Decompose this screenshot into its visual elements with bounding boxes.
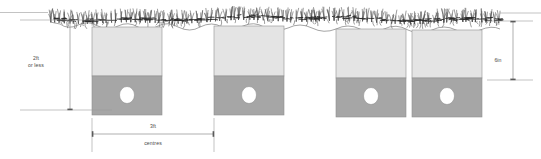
bore-hole <box>242 87 257 104</box>
hedge-stem <box>126 18 132 19</box>
stake-block-4 <box>412 30 482 117</box>
stake-block-1 <box>92 27 162 115</box>
dimension-label-primary: 2ft <box>33 55 40 61</box>
hedge-hang <box>225 20 227 23</box>
dimension-label-secondary: or less <box>28 62 44 68</box>
stake-block-2 <box>214 26 284 115</box>
hedge-sprig <box>258 12 260 20</box>
hedge-hang <box>183 23 185 29</box>
hedge-hang <box>268 20 269 22</box>
hedge-hang <box>407 23 408 27</box>
hedge-hang <box>85 23 87 29</box>
hedge-sprig <box>263 10 266 20</box>
hedge-sprig <box>281 10 282 21</box>
hedge-hang <box>313 20 314 24</box>
hedge-hang <box>476 21 478 24</box>
hedge-hang <box>198 22 199 27</box>
hedge-hang <box>272 20 273 23</box>
hedge-sprig <box>393 15 395 23</box>
hedge-hang <box>162 22 163 27</box>
diagram-canvas: 2ftor less3ftcentres6in <box>0 0 541 159</box>
hedge-hang <box>380 22 381 25</box>
hedge-hang <box>345 20 346 25</box>
hedge-sprig <box>162 12 163 23</box>
hedge-hang <box>430 22 431 27</box>
hedge-sprig <box>336 11 338 21</box>
hedge-stem <box>184 19 187 20</box>
bore-hole <box>440 88 455 105</box>
hedge-sprig <box>218 9 219 21</box>
hedge-stem <box>290 17 293 18</box>
dimension-depth-right: 6in <box>487 21 533 80</box>
hedge-hang <box>221 20 222 26</box>
hedge-sprig <box>68 13 70 23</box>
hedge-hang <box>481 21 482 26</box>
hedge-hang <box>347 20 348 24</box>
hedge-hang <box>417 23 419 28</box>
hedge-vegetation-layer <box>49 7 503 29</box>
hedge-hang <box>470 21 471 27</box>
hedge-stem <box>259 15 262 16</box>
hedge-hang <box>442 22 444 28</box>
hedge-hang <box>270 20 271 22</box>
hedge-sprig <box>377 10 378 22</box>
hedge-sprig <box>168 14 170 23</box>
hedge-stem <box>483 19 487 20</box>
hedge-hang <box>496 22 497 25</box>
stake-blocks-group <box>92 26 482 117</box>
hedge-hang <box>490 22 491 26</box>
hedge-hang <box>164 22 165 26</box>
hedge-hang <box>114 22 115 26</box>
hedge-hang <box>479 21 480 26</box>
hedge-hang <box>391 23 392 29</box>
hedge-hang <box>248 19 249 25</box>
hedge-hang <box>61 22 62 24</box>
hedge-sprig <box>78 13 79 23</box>
hedge-hang <box>401 23 402 25</box>
dimension-label-primary: 6in <box>494 57 501 63</box>
hedge-sprig <box>225 9 226 20</box>
hedge-stem <box>452 19 455 20</box>
hedge-sprig <box>449 12 451 22</box>
hedge-stake-diagram: 2ftor less3ftcentres6in <box>0 0 541 159</box>
hedge-stem <box>312 17 316 18</box>
hedge-stem <box>320 17 327 18</box>
hedge-stem <box>380 20 385 21</box>
hedge-sprig <box>399 16 400 24</box>
hedge-hang <box>156 22 158 25</box>
dimension-label-primary: 3ft <box>150 123 157 129</box>
block-upper-section <box>412 30 482 78</box>
hedge-hang <box>336 20 337 24</box>
hedge-sprig <box>404 11 406 24</box>
hedge-hang <box>349 20 350 22</box>
hedge-hang <box>139 21 140 24</box>
hedge-stem <box>237 15 241 16</box>
hedge-stem <box>144 20 150 21</box>
hedge-sprig <box>220 12 222 21</box>
hedge-hang <box>306 21 308 26</box>
hedge-hang <box>199 22 200 27</box>
hedge-hang <box>356 20 357 23</box>
hedge-sprig <box>349 12 351 20</box>
hedge-stem <box>281 17 285 18</box>
bore-hole <box>364 88 379 105</box>
hedge-sprig <box>192 13 194 23</box>
hedge-hang <box>74 23 75 29</box>
hedge-hang <box>411 23 412 26</box>
hedge-hang <box>135 21 137 26</box>
hedge-hang <box>424 23 425 27</box>
stake-block-3 <box>336 29 406 117</box>
hedge-stem <box>403 20 410 21</box>
hedge-sprig <box>307 9 309 21</box>
hedge-hang <box>159 22 160 26</box>
hedge-hang <box>172 23 173 29</box>
hedge-stem <box>501 20 503 21</box>
hedge-hang <box>410 23 411 27</box>
hedge-hang <box>317 20 318 25</box>
hedge-sprig <box>55 11 56 22</box>
hedge-hang <box>328 20 329 23</box>
hedge-stem <box>411 20 413 21</box>
hedge-hang <box>438 22 439 26</box>
hedge-sprig <box>354 9 356 21</box>
block-upper-section <box>92 27 162 76</box>
